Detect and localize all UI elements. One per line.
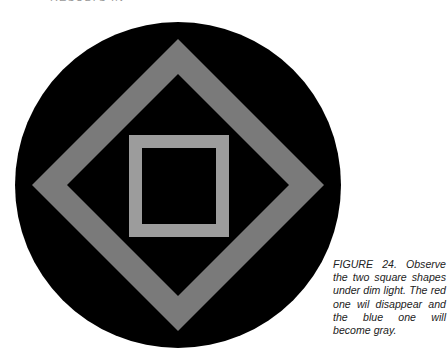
figure-caption: FIGURE 24. Observe the two square shapes…: [333, 258, 446, 337]
